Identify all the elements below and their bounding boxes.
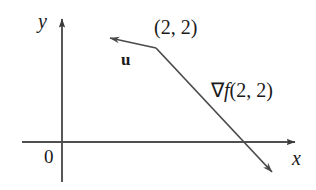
gradient-vector-label: ∇f(2, 2) [211, 80, 273, 100]
nabla-icon: ∇ [211, 79, 224, 101]
origin-label: 0 [44, 147, 54, 166]
y-axis-label: y [38, 11, 47, 31]
gradient-arguments: (2, 2) [230, 79, 273, 101]
vector-field-diagram: y x 0 (2, 2) u ∇f(2, 2) [0, 0, 316, 190]
vector-u-label: u [121, 51, 130, 68]
vector-gradient-arrow [156, 48, 272, 172]
point-coordinate-label: (2, 2) [154, 17, 197, 37]
x-axis-label: x [292, 148, 301, 168]
vector-u-arrow [110, 38, 156, 48]
